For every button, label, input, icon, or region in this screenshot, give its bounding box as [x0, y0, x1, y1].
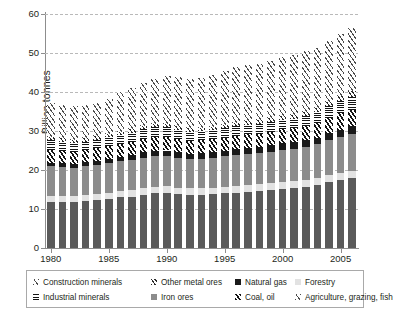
bar-segment — [221, 138, 229, 151]
bar-1980 — [47, 14, 55, 248]
bar-segment — [314, 48, 322, 108]
bar-segment — [314, 185, 322, 248]
bar-1998 — [256, 14, 264, 248]
bar-segment — [117, 92, 125, 132]
bar-segment — [70, 106, 78, 139]
bar-segment — [174, 194, 182, 248]
bar-segment — [105, 146, 113, 159]
bar-segment — [93, 200, 101, 248]
bar-segment — [302, 140, 310, 147]
legend-item[interactable]: Iron ores — [151, 289, 193, 305]
bar-segment — [221, 187, 229, 194]
bar-1994 — [209, 14, 217, 248]
bar-segment — [186, 159, 194, 189]
legend-swatch-icon — [33, 294, 39, 300]
bar-1981 — [59, 14, 67, 248]
bar-segment — [105, 134, 113, 137]
y-tick-label: 30 — [11, 126, 39, 136]
bar-segment — [128, 129, 136, 132]
bar-segment — [93, 136, 101, 139]
bar-segment — [337, 34, 345, 96]
legend-row-2: Industrial mineralsIron oresCoal, oilAgr… — [27, 289, 363, 305]
legend: Construction mineralsOther metal oresNat… — [26, 270, 364, 308]
bar-segment — [232, 149, 240, 155]
bar-segment — [47, 202, 55, 248]
bar-segment — [128, 88, 136, 129]
bar-segment — [198, 78, 206, 128]
bar-segment — [47, 163, 55, 167]
bar-segment — [314, 138, 322, 145]
bar-segment — [117, 157, 125, 162]
bar-segment — [348, 171, 356, 178]
bar-segment — [302, 187, 310, 248]
bar-segment — [186, 188, 194, 195]
bar-segment — [232, 67, 240, 122]
bar-2000 — [279, 14, 287, 248]
x-tick-label: 1990 — [147, 254, 187, 264]
bar-segment — [47, 150, 55, 163]
bar-1997 — [244, 14, 252, 248]
bar-segment — [105, 163, 113, 192]
bar-segment — [82, 162, 90, 166]
legend-item[interactable]: Forestry — [295, 274, 335, 290]
x-tick-label: 1980 — [31, 254, 71, 264]
bar-segment — [128, 190, 136, 197]
bar-segment — [140, 139, 148, 153]
bar-1995 — [221, 14, 229, 248]
y-tick-label: 60 — [11, 9, 39, 19]
x-axis-line — [45, 248, 359, 249]
bar-segment — [198, 159, 206, 189]
legend-swatch-icon — [235, 279, 241, 285]
bar-segment — [93, 103, 101, 137]
bar-segment — [290, 149, 298, 182]
bar-segment — [279, 129, 287, 143]
legend-item[interactable]: Coal, oil — [235, 289, 275, 305]
bar-segment — [198, 128, 206, 132]
bar-2003 — [314, 14, 322, 248]
x-tick-label: 1995 — [205, 254, 245, 264]
legend-swatch-icon — [33, 279, 39, 285]
bar-segment — [244, 134, 252, 148]
y-tick-label: 20 — [11, 165, 39, 175]
bar-segment — [302, 116, 310, 126]
bar-1982 — [70, 14, 78, 248]
legend-item[interactable]: Other metal ores — [151, 274, 222, 290]
bar-1988 — [140, 14, 148, 248]
bar-segment — [140, 83, 148, 126]
bar-segment — [232, 123, 240, 127]
legend-item[interactable]: Agriculture, grazing, fish — [295, 289, 393, 305]
bar-segment — [290, 115, 298, 119]
bar-1984 — [93, 14, 101, 248]
bar-segment — [267, 145, 275, 151]
y-tick-mark — [41, 248, 45, 249]
bar-segment — [163, 151, 171, 156]
bar-segment — [174, 130, 182, 139]
bar-segment — [348, 126, 356, 133]
y-tick-label: 50 — [11, 48, 39, 58]
bar-segment — [198, 195, 206, 248]
legend-item[interactable]: Industrial minerals — [33, 289, 109, 305]
legend-item[interactable]: Natural gas — [235, 274, 287, 290]
bar-segment — [174, 126, 182, 130]
bar-segment — [174, 139, 182, 152]
bar-segment — [348, 91, 356, 96]
bar-segment — [256, 184, 264, 191]
legend-item[interactable]: Construction minerals — [33, 274, 122, 290]
bar-segment — [59, 138, 67, 141]
bar-segment — [256, 124, 264, 133]
bar-segment — [186, 128, 194, 132]
bar-segment — [128, 197, 136, 248]
bar-segment — [93, 165, 101, 194]
bar-segment — [267, 132, 275, 146]
bar-segment — [256, 147, 264, 153]
bar-segment — [186, 79, 194, 129]
y-tick-label: 0 — [11, 243, 39, 253]
bar-segment — [59, 105, 67, 138]
bar-segment — [337, 113, 345, 129]
bar-segment — [117, 144, 125, 157]
bar-segment — [256, 64, 264, 120]
bar-segment — [59, 163, 67, 167]
x-tick-label: 2005 — [321, 254, 361, 264]
bar-segment — [128, 133, 136, 142]
bar-segment — [174, 188, 182, 195]
